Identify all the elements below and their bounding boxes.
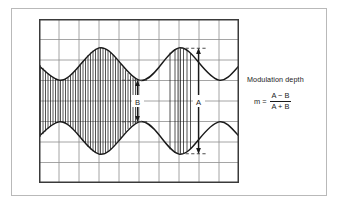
oscilloscope-graticule: B A (39, 19, 239, 183)
modulation-depth-formula: m = A − B A + B (247, 92, 329, 111)
measure-b-label: B (135, 98, 140, 107)
waveform-plot: B A (39, 19, 239, 183)
annotation-title: Modulation depth (247, 76, 329, 83)
formula-lhs: m = (254, 97, 267, 106)
formula-denominator: A + B (270, 102, 292, 111)
modulation-depth-figure: B A Modulation depth m = A − B A + B (0, 0, 339, 207)
formula-numerator: A − B (270, 92, 292, 101)
formula-fraction: A − B A + B (270, 92, 292, 111)
annotation-block: Modulation depth m = A − B A + B (247, 76, 329, 111)
